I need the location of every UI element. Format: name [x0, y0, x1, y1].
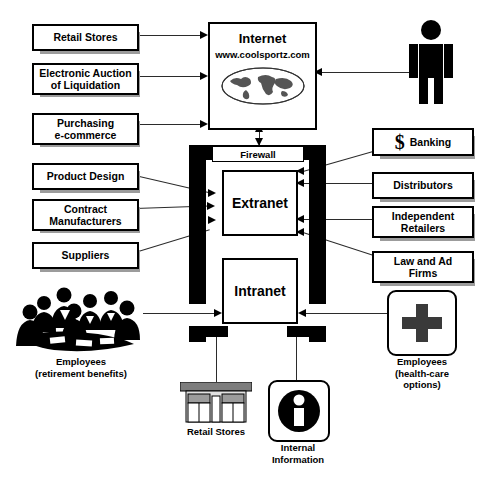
- connector-purchasing-to-internet: [135, 124, 201, 125]
- node-contract-manufacturers[interactable]: Contract Manufacturers: [32, 199, 139, 231]
- node-label: Independent Retailers: [392, 210, 454, 235]
- arrowhead-retail-to-internet: [200, 31, 208, 39]
- information-i-icon-card: [268, 380, 330, 442]
- firewall-left-leg: [189, 160, 206, 304]
- node-banking[interactable]: $ Banking: [372, 128, 474, 156]
- arrowhead-contract-manufacturers: [207, 202, 215, 210]
- employees-healthcare-caption: Employees (health-care options): [376, 356, 468, 391]
- arrowhead-auction-to-internet: [200, 72, 208, 80]
- diagram-canvas: Retail Stores Electronic Auction of Liqu…: [0, 0, 502, 496]
- information-i-icon: [277, 389, 321, 433]
- dollar-sign-icon: $: [395, 132, 405, 152]
- arrowhead-retail-bottom: [212, 326, 220, 334]
- node-intranet[interactable]: Intranet: [222, 258, 298, 324]
- firewall-label: Firewall: [212, 146, 304, 162]
- connector-retail-to-internet: [135, 35, 201, 36]
- node-label: Law and Ad Firms: [394, 255, 453, 280]
- employees-retirement-caption: Employees (retirement benefits): [8, 356, 154, 379]
- firewall-label-text: Firewall: [240, 149, 275, 160]
- intranet-label: Intranet: [234, 283, 285, 299]
- node-independent-retailers[interactable]: Independent Retailers: [372, 206, 474, 238]
- retail-stores-bottom-caption: Retail Stores: [172, 426, 260, 438]
- node-label: Banking: [410, 136, 451, 148]
- people-meeting-icon: [14, 286, 146, 358]
- node-label: Product Design: [47, 170, 125, 182]
- node-label: Contract Manufacturers: [49, 203, 121, 228]
- internal-information-caption: Internal Information: [258, 442, 338, 465]
- node-label: Electronic Auction of Liquidation: [39, 67, 131, 92]
- connector-customer-to-internet: [322, 72, 417, 73]
- node-label: Retail Stores: [53, 31, 117, 43]
- connector-auction-to-internet: [135, 76, 201, 77]
- arrowhead-employees-retirement: [214, 309, 222, 317]
- node-electronic-auction[interactable]: Electronic Auction of Liquidation: [32, 63, 139, 95]
- node-suppliers[interactable]: Suppliers: [32, 242, 139, 269]
- node-extranet[interactable]: Extranet: [222, 170, 298, 236]
- internet-url: www.coolsportz.com: [215, 49, 310, 60]
- node-retail-stores[interactable]: Retail Stores: [32, 24, 139, 51]
- node-product-design[interactable]: Product Design: [32, 163, 139, 190]
- node-distributors[interactable]: Distributors: [372, 172, 474, 199]
- node-internet[interactable]: Internet www.coolsportz.com: [208, 22, 317, 130]
- firewall-left-foot: [189, 326, 206, 342]
- storefront-icon: [180, 382, 252, 428]
- node-purchasing-ecommerce[interactable]: Purchasing e-commerce: [32, 113, 139, 145]
- firewall-right-leg: [309, 160, 326, 304]
- firewall-right-foot: [309, 326, 326, 342]
- medical-cross-icon: [400, 302, 444, 344]
- extranet-label: Extranet: [232, 195, 288, 211]
- arrowhead-employees-healthcare: [298, 309, 306, 317]
- node-law-and-ad-firms[interactable]: Law and Ad Firms: [372, 251, 474, 283]
- medical-cross-icon-card: [387, 290, 457, 356]
- arrowhead-product-design: [208, 189, 216, 197]
- node-label: Suppliers: [62, 249, 110, 261]
- internet-title: Internet: [239, 31, 287, 46]
- arrowhead-suppliers: [208, 216, 216, 224]
- arrowhead-purchasing-to-internet: [200, 120, 208, 128]
- arrowhead-internet-to-firewall: [255, 138, 263, 146]
- world-globe-icon: [220, 65, 306, 107]
- node-label: Purchasing e-commerce: [55, 117, 117, 142]
- arrowhead-internal-info: [292, 326, 300, 334]
- node-label: Distributors: [393, 179, 453, 191]
- person-standing-icon: [405, 18, 457, 110]
